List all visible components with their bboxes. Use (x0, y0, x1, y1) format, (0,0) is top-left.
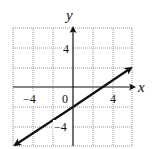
tick-label-x-neg4: −4 (23, 92, 36, 106)
tick-label-y-neg4: −4 (54, 120, 67, 134)
tick-label-x-4: 4 (110, 92, 116, 106)
y-axis-label: y (64, 7, 73, 23)
coordinate-plane: y x −4 0 4 4 −4 (0, 0, 155, 149)
x-axis-label: x (137, 79, 145, 95)
tick-label-y-4: 4 (63, 42, 69, 56)
tick-label-x-0: 0 (62, 92, 68, 106)
